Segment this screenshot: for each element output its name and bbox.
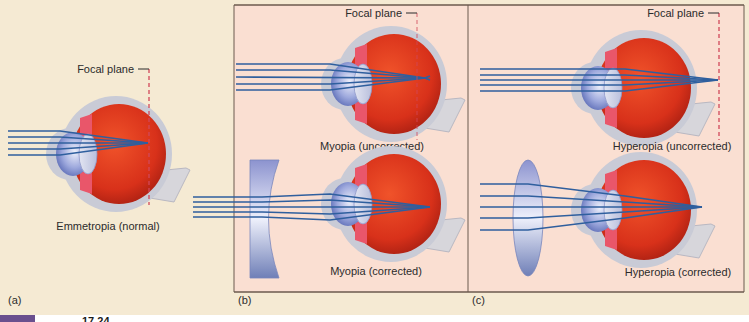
figure-footer: 17.24 bbox=[0, 315, 749, 322]
panel-tag-a: (a) bbox=[8, 294, 21, 306]
caption-myopia-corrected: Myopia (corrected) bbox=[330, 265, 422, 277]
footer-bar bbox=[0, 315, 35, 322]
panel-tag-b: (b) bbox=[238, 294, 251, 306]
caption-hyperopia-uncorrected: Hyperopia (uncorrected) bbox=[613, 140, 732, 152]
panel-a-emmetropia: Focal plane Emmetropia (normal) (a) bbox=[8, 63, 190, 306]
focal-plane-label: Focal plane bbox=[345, 7, 402, 19]
caption-hyperopia-corrected: Hyperopia (corrected) bbox=[625, 266, 731, 278]
figure-number-partial: 17.24 bbox=[82, 315, 110, 322]
caption-emmetropia: Emmetropia (normal) bbox=[56, 220, 159, 232]
panel-tag-c: (c) bbox=[472, 294, 485, 306]
focal-plane-label: Focal plane bbox=[77, 63, 134, 75]
focal-plane-label: Focal plane bbox=[647, 7, 704, 19]
eye-refraction-figure: Focal plane Emmetropia (normal) (a) Foca… bbox=[0, 0, 749, 322]
